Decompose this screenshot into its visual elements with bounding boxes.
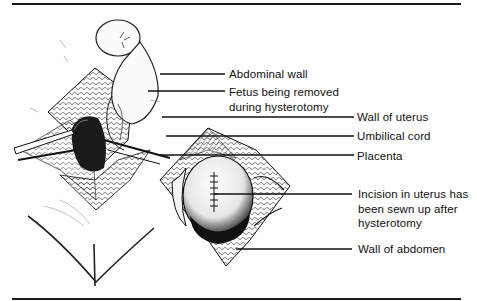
lower-abdomen-outline [28,200,154,286]
label-placenta: Placenta [357,149,403,164]
hysterotomy-diagram: Abdominal wall Fetus being removed durin… [0,0,477,301]
label-line: Incision in uterus has [358,187,468,202]
label-line: Wall of uterus [357,110,428,125]
label-wall-of-uterus: Wall of uterus [357,110,428,125]
label-line: Wall of abdomen [358,242,445,257]
label-line: Umbilical cord [357,129,431,144]
label-line: Abdominal wall [229,67,308,82]
label-fetus: Fetus being removed during hysterotomy [229,85,339,114]
label-abdominal-wall: Abdominal wall [229,67,308,82]
label-line: Placenta [357,149,403,164]
label-line: hysterotomy [358,216,468,231]
label-umbilical-cord: Umbilical cord [357,129,431,144]
label-wall-of-abdomen: Wall of abdomen [358,242,445,257]
label-incision: Incision in uterus has been sewn up afte… [358,187,468,231]
label-line: Fetus being removed [229,85,339,100]
left-incision-drawing [14,20,170,210]
label-line: during hysterotomy [229,100,339,115]
label-line: been sewn up after [358,202,468,217]
right-incision-drawing [160,128,290,266]
